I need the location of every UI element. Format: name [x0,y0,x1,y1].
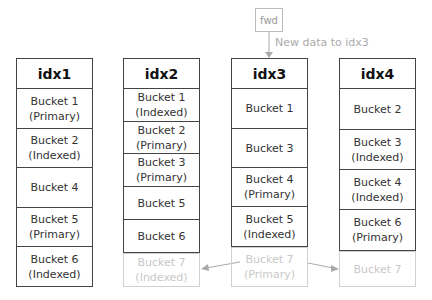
bucket-cell-pending: Bucket 7 [339,251,416,287]
bucket-cell: Bucket 6(Indexed) [17,247,92,286]
bucket-cell: Bucket 3 [232,129,307,168]
bucket-cell: Bucket 2 [340,89,415,130]
bucket-cell: Bucket 1 [232,89,307,129]
column-title: idx1 [17,59,92,89]
bucket-cell: Bucket 1(Primary) [17,89,92,129]
bucket-cell-pending: Bucket 7(Primary) [231,247,308,287]
bucket-cell: Bucket 6(Primary) [340,210,415,251]
column-title: idx3 [232,59,307,89]
bucket-cell: Bucket 5(Indexed) [232,207,307,247]
column-idx3: idx3 Bucket 1 Bucket 3 Bucket 4(Primary)… [231,58,308,286]
bucket-cell: Bucket 3(Indexed) [340,130,415,170]
column-title: idx4 [340,59,415,89]
bucket-cell: Bucket 4(Primary) [232,168,307,207]
column-title: idx2 [124,59,199,89]
bucket-cell: Bucket 5 [124,187,199,220]
column-idx2: idx2 Bucket 1(Indexed) Bucket 2(Primary)… [123,58,200,286]
bucket-cell: Bucket 2(Indexed) [17,129,92,168]
column-idx1: idx1 Bucket 1(Primary) Bucket 2(Indexed)… [16,58,93,287]
bucket-cell: Bucket 6 [124,220,199,253]
bucket-cell: Bucket 3(Primary) [124,154,199,187]
column-idx4: idx4 Bucket 2 Bucket 3(Indexed) Bucket 4… [339,58,416,286]
bucket-cell: Bucket 4 [17,168,92,208]
bucket-cell-pending: Bucket 7(Indexed) [123,253,200,287]
bucket-cell: Bucket 4(Indexed) [340,170,415,210]
bucket-cell: Bucket 1(Indexed) [124,89,199,122]
bucket-cell: Bucket 2(Primary) [124,122,199,154]
bucket-cell: Bucket 5(Primary) [17,208,92,247]
